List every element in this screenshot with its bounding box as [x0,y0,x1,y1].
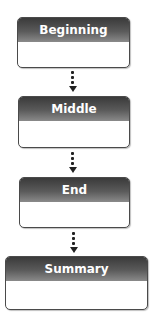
beginning-header: Beginning [18,18,129,42]
end-header: End [20,178,129,202]
middle-box: Middle [18,96,130,148]
arrow-down-icon [70,232,78,254]
middle-header: Middle [19,97,129,121]
arrow-down-icon [69,152,77,174]
summary-header: Summary [6,257,147,281]
arrow-down-icon [69,71,77,93]
beginning-box: Beginning [17,17,130,68]
summary-box: Summary [5,256,148,310]
end-box: End [19,177,130,228]
